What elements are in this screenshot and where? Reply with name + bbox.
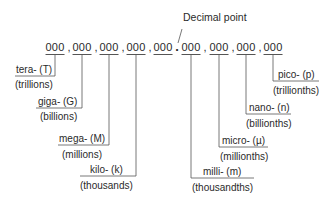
digit-group-mega: 000 bbox=[100, 41, 119, 55]
comma: , bbox=[94, 41, 97, 53]
mega-prefix-label: mega- (M) bbox=[59, 133, 105, 145]
mega-meaning-label: (millions) bbox=[62, 149, 102, 161]
pico-prefix-label: pico- (p) bbox=[278, 69, 315, 81]
tera-prefix-label: tera- (T) bbox=[16, 64, 52, 76]
micro-meaning-label: (millionths) bbox=[220, 151, 268, 163]
digit-group-units: 000 bbox=[154, 41, 173, 55]
comma: , bbox=[121, 41, 124, 53]
decimal-point-label: Decimal point bbox=[183, 11, 247, 23]
digit-group-tera: 000 bbox=[46, 41, 65, 55]
decimal-point: . bbox=[175, 41, 179, 53]
digit-group-micro: 000 bbox=[210, 41, 229, 55]
nano-prefix-label: nano- (n) bbox=[249, 102, 290, 114]
giga-meaning-label: (billions) bbox=[40, 111, 77, 123]
kilo-prefix-label: kilo- (k) bbox=[90, 164, 123, 176]
kilo-meaning-label: (thousands) bbox=[80, 180, 133, 192]
digit-group-giga: 000 bbox=[73, 41, 92, 55]
micro-connector bbox=[219, 55, 268, 147]
giga-prefix-label: giga- (G) bbox=[38, 96, 77, 108]
comma: , bbox=[231, 41, 234, 53]
pico-meaning-label: (trillionths) bbox=[273, 85, 319, 97]
digit-group-pico: 000 bbox=[264, 41, 283, 55]
nano-meaning-label: (billionths) bbox=[246, 118, 292, 130]
comma: , bbox=[258, 41, 261, 53]
comma: , bbox=[148, 41, 151, 53]
comma: , bbox=[203, 41, 206, 53]
digit-group-milli: 000 bbox=[182, 41, 201, 55]
digit-group-nano: 000 bbox=[237, 41, 256, 55]
milli-prefix-label: milli- (m) bbox=[203, 166, 241, 178]
metric-prefix-diagram: Decimal point 000 , 000 , 000 , 000 , 00… bbox=[0, 0, 333, 202]
comma: , bbox=[67, 41, 70, 53]
tera-meaning-label: (trillions) bbox=[15, 79, 53, 91]
micro-prefix-label: micro- (µ) bbox=[222, 135, 265, 147]
milli-meaning-label: (thousandths) bbox=[192, 182, 253, 194]
digit-group-kilo: 000 bbox=[127, 41, 146, 55]
